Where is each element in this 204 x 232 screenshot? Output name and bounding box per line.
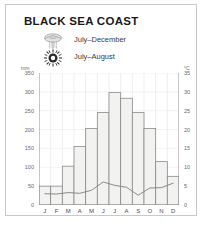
legend-label-jellyfish: July–December [74,35,126,44]
left-axis-tick-label: 250 [18,108,34,114]
jellyfish-icon [42,32,64,50]
legend-label-sun: July–August [74,52,115,61]
climograph-plot [39,73,179,205]
x-axis-month-label: J [97,208,109,214]
right-axis-tick-label: 25 [184,108,200,114]
x-axis-month-label: M [62,208,74,214]
precipitation-bar [74,147,86,205]
left-axis-tick-label: 0 [18,202,34,208]
precipitation-bar [132,113,144,205]
precipitation-bar [121,98,133,205]
plot-svg [39,73,179,205]
precipitation-bar [144,128,156,205]
precipitation-bar [39,186,51,205]
x-axis-month-label: D [167,208,179,214]
left-axis-tick-label: 150 [18,145,34,151]
sun-icon [42,49,64,67]
x-axis-month-label: M [86,208,98,214]
right-axis-tick-label: 0 [184,202,200,208]
left-axis-tick-label: 100 [18,164,34,170]
precipitation-bar [51,186,63,205]
page-title: BLACK SEA COAST [24,15,139,27]
x-axis-month-label: A [74,208,86,214]
precipitation-bar [97,113,109,205]
x-axis-month-label: J [109,208,121,214]
left-axis-tick-label: 300 [18,89,34,95]
x-axis-month-label: N [156,208,168,214]
precipitation-bar [62,166,74,205]
right-axis-tick-label: 20 [184,127,200,133]
x-axis-month-label: J [39,208,51,214]
right-axis-tick-label: 5 [184,183,200,189]
right-axis-tick-label: 10 [184,164,200,170]
precipitation-bar [86,128,98,205]
right-axis-tick-label: 35 [184,70,200,76]
chart-frame: BLACK SEA COAST July–December [5,4,197,216]
left-axis-tick-label: 50 [18,183,34,189]
x-axis-month-label: A [121,208,133,214]
x-axis-month-label: O [144,208,156,214]
left-axis-tick-label: 200 [18,127,34,133]
x-axis-month-label: F [51,208,63,214]
right-axis-tick-label: 30 [184,89,200,95]
left-axis-tick-label: 350 [18,70,34,76]
right-axis-tick-label: 15 [184,145,200,151]
precipitation-bar [167,176,179,205]
x-axis-month-label: S [132,208,144,214]
precipitation-bar [109,93,121,205]
precipitation-bar [156,162,168,205]
